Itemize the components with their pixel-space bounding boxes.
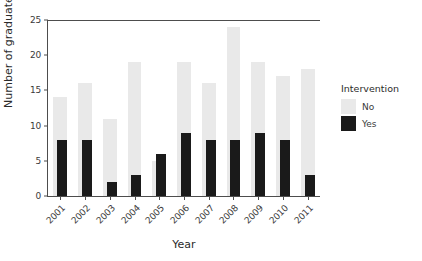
y-tick-mark: [44, 196, 48, 197]
bar-group: [251, 20, 265, 196]
x-tick-mark: [209, 196, 210, 200]
bar-group: [301, 20, 315, 196]
bar-yes-2003: [107, 182, 117, 196]
x-tick-label-2005: 2005: [142, 203, 166, 227]
y-tick-mark: [44, 55, 48, 56]
x-tick-mark: [110, 196, 111, 200]
bar-yes-2002: [82, 140, 92, 196]
legend-entries: NoYes: [341, 99, 419, 131]
bar-group: [276, 20, 290, 196]
x-tick-label-2004: 2004: [118, 203, 142, 227]
bar-yes-2010: [280, 140, 290, 196]
bar-group: [78, 20, 92, 196]
bar-group: [53, 20, 67, 196]
bar-group: [128, 20, 142, 196]
y-tick-mark: [44, 90, 48, 91]
legend-swatch-no: [341, 99, 356, 114]
bar-yes-2006: [181, 133, 191, 196]
legend-title: Intervention: [341, 83, 419, 94]
legend-swatch-yes: [341, 116, 356, 131]
bar-yes-2004: [131, 175, 141, 196]
y-tick-label: 0: [35, 191, 41, 201]
y-tick-label: 25: [30, 15, 41, 25]
x-tick-label-2002: 2002: [68, 203, 92, 227]
x-tick-label-2010: 2010: [266, 203, 290, 227]
bar-yes-2001: [57, 140, 67, 196]
bar-yes-2005: [156, 154, 166, 196]
legend-label-yes: Yes: [362, 119, 377, 129]
x-tick-mark: [135, 196, 136, 200]
y-tick-mark: [44, 160, 48, 161]
plot-area: 0510152025: [48, 20, 320, 196]
legend-label-no: No: [362, 102, 374, 112]
bar-group: [227, 20, 241, 196]
legend-item-no[interactable]: No: [341, 99, 419, 114]
bar-yes-2009: [255, 133, 265, 196]
bar-group: [177, 20, 191, 196]
bar-yes-2011: [305, 175, 315, 196]
bar-group: [152, 20, 166, 196]
bar-yes-2007: [206, 140, 216, 196]
bar-group: [202, 20, 216, 196]
x-tick-mark: [85, 196, 86, 200]
x-tick-label-2003: 2003: [93, 203, 117, 227]
y-tick-mark: [44, 125, 48, 126]
x-tick-label-2006: 2006: [167, 203, 191, 227]
legend-item-yes[interactable]: Yes: [341, 116, 419, 131]
chart-figure: Number of graduates 0510152025 200120022…: [0, 0, 422, 261]
x-tick-label-2001: 2001: [43, 203, 67, 227]
bar-group: [103, 20, 117, 196]
x-tick-mark: [184, 196, 185, 200]
x-tick-label-2009: 2009: [241, 203, 265, 227]
y-tick-label: 5: [35, 156, 41, 166]
x-tick-mark: [233, 196, 234, 200]
x-tick-label-2011: 2011: [291, 203, 315, 227]
y-tick-label: 15: [30, 85, 41, 95]
x-tick-label-2007: 2007: [192, 203, 216, 227]
legend: Intervention NoYes: [341, 83, 419, 133]
y-tick-label: 10: [30, 121, 41, 131]
x-tick-mark: [258, 196, 259, 200]
x-tick-mark: [159, 196, 160, 200]
x-tick-mark: [60, 196, 61, 200]
y-tick-label: 20: [30, 50, 41, 60]
y-tick-mark: [44, 20, 48, 21]
x-axis-label: Year: [48, 238, 320, 251]
bar-yes-2008: [230, 140, 240, 196]
y-axis-label: Number of graduates: [2, 0, 15, 108]
x-tick-mark: [308, 196, 309, 200]
x-tick-mark: [283, 196, 284, 200]
x-tick-label-2008: 2008: [216, 203, 240, 227]
